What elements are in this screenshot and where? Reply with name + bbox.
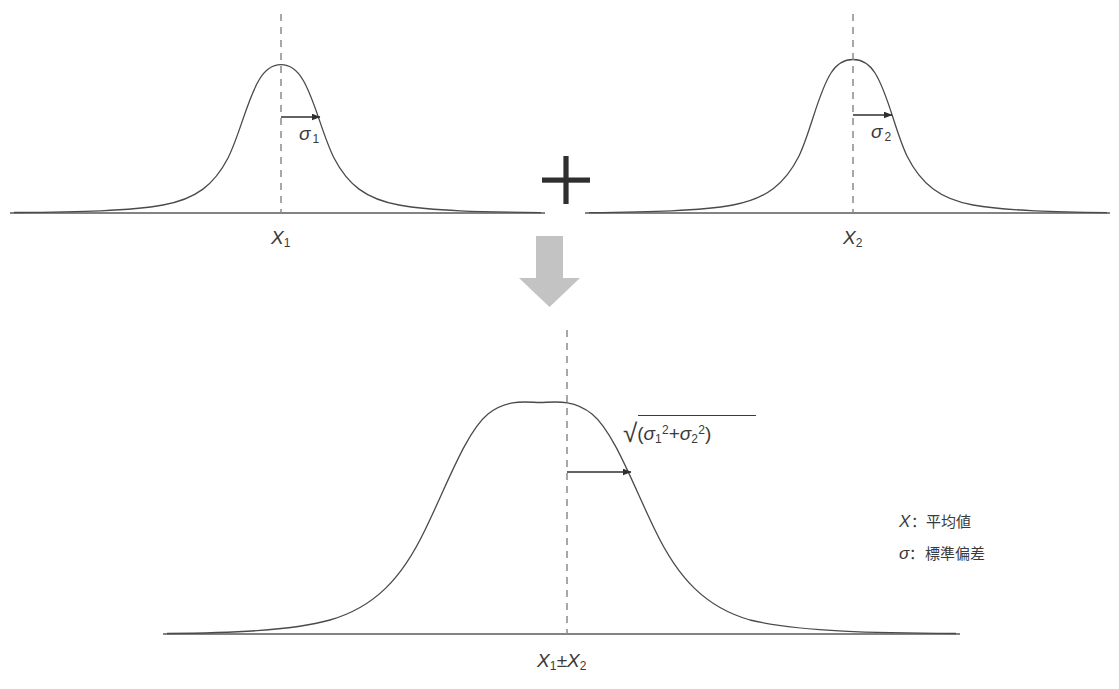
radicand-plus: + [669,423,680,444]
result-mean-subscript-2: 2 [580,659,587,673]
down-arrow-icon [519,236,580,307]
legend-item-mean: X：平均値 [899,513,971,530]
curve-1-bell [14,65,541,213]
legend-item-sigma: σ：標準偏差 [899,545,985,562]
radicand-close-paren: ) [705,423,711,444]
radical-sign-icon: √ [623,418,637,448]
legend-sigma-symbol: σ [899,544,909,563]
diagram-canvas [0,0,1119,689]
result-mean-subscript-1: 1 [550,659,557,673]
curve-2-bell [589,60,1107,213]
curve-1-mean-subscript: 1 [284,236,291,250]
legend-mean-text: 平均値 [926,513,972,531]
curve-2-mean-label: X2 [843,228,863,249]
legend-mean-separator: ： [911,513,926,531]
radicand-sigma-2: σ [680,423,691,444]
curve-1-sigma-symbol: σ [299,123,310,144]
radicand-sigma-1: σ [644,423,655,444]
curve-1-group [10,14,545,213]
curve-2-sigma-label: σ2 [871,122,891,143]
curve-1-sigma-label: σ1 [299,124,319,145]
legend-sigma-separator: ： [909,545,924,563]
statistics-diagram: X1 σ1 X2 σ2 X1±X2 √(σ12+σ22) X：平均値 σ：標準偏… [0,0,1119,689]
radicand-sigma-2-power: 2 [698,423,705,437]
curve-1-sigma-subscript: 1 [312,132,319,146]
curve-result-sigma-formula: √(σ12+σ22) [623,416,711,447]
curve-2-mean-symbol: X [843,227,856,248]
curve-1-mean-label: X1 [271,228,291,249]
plus-sign-icon [542,156,590,204]
curve-2-group [585,14,1110,213]
legend-sigma-text: 標準偏差 [925,545,986,563]
radicand-sigma-1-subscript: 1 [655,432,662,446]
radical-overbar [638,415,756,416]
curve-result-mean-label: X1±X2 [537,651,587,672]
result-mean-symbol-2: X [567,650,580,671]
curve-2-sigma-subscript: 2 [884,130,891,144]
curve-result-bell [167,402,956,634]
curve-result-group [163,330,960,634]
plus-minus-symbol: ± [557,650,567,671]
curve-2-sigma-symbol: σ [871,121,882,142]
legend-mean-symbol: X [899,512,911,531]
curve-2-mean-subscript: 2 [856,236,863,250]
curve-1-mean-symbol: X [271,227,284,248]
radicand-sigma-1-power: 2 [662,423,669,437]
result-mean-symbol-1: X [537,650,550,671]
